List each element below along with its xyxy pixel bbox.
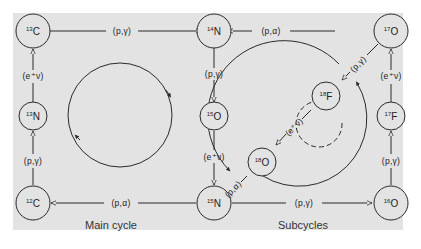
cno-cycle-diagram: 13C 14N 17O 13N 15O 18F 17F 18O 12C 15N … [0, 0, 421, 249]
caption-main-cycle: Main cycle [85, 219, 137, 231]
caption-subcycles: Subcycles [278, 219, 329, 231]
reaction-label: (p,γ) [24, 156, 43, 166]
reaction-label: (p,γ) [205, 69, 224, 79]
reaction-label: (p,γ) [113, 26, 132, 36]
reaction-label: (p,γ) [295, 198, 314, 208]
reaction-label: (e⁺ν) [22, 71, 43, 81]
reaction-label: (e⁺ν) [203, 152, 224, 162]
reaction-label: (e⁺ν) [380, 71, 401, 81]
reaction-label: (p,α) [261, 26, 280, 36]
reaction-label: (p,γ) [382, 156, 401, 166]
reaction-label: (p,α) [111, 198, 130, 208]
